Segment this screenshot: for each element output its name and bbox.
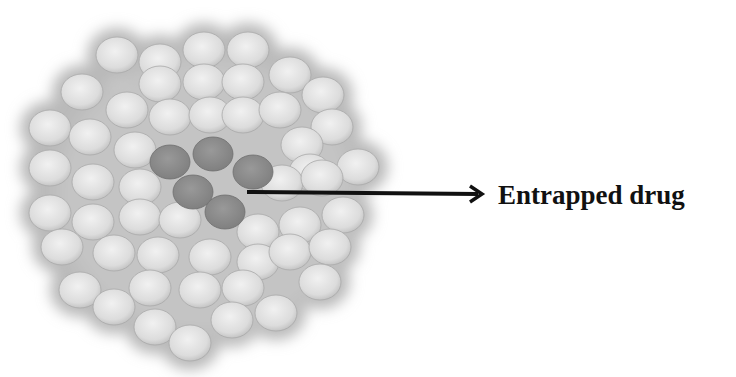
carrier-particle: [222, 97, 264, 133]
carrier-particle: [72, 164, 114, 200]
carrier-particle: [29, 195, 71, 231]
carrier-particle: [106, 92, 148, 128]
carrier-particle: [309, 229, 351, 265]
carrier-particle: [169, 325, 211, 361]
carrier-particle: [69, 119, 111, 155]
carrier-particle: [259, 92, 301, 128]
carrier-particle: [189, 239, 231, 275]
drug-particle: [233, 155, 273, 189]
carrier-particle: [183, 64, 225, 100]
carrier-particle: [302, 77, 344, 113]
carrier-particle: [149, 99, 191, 135]
carrier-particle: [93, 235, 135, 271]
carrier-particle: [255, 295, 297, 331]
drug-particle: [193, 137, 233, 171]
carrier-particle: [211, 302, 253, 338]
carrier-particle: [41, 229, 83, 265]
carrier-particle: [137, 237, 179, 273]
carrier-particle: [119, 199, 161, 235]
carrier-particle: [322, 197, 364, 233]
carrier-particle: [183, 32, 225, 68]
carrier-particle: [93, 289, 135, 325]
carrier-particle: [29, 110, 71, 146]
carrier-particle: [72, 204, 114, 240]
carrier-particle: [139, 66, 181, 102]
carrier-particle: [269, 234, 311, 270]
carrier-particle: [299, 264, 341, 300]
carrier-particle: [179, 272, 221, 308]
carrier-particle: [29, 150, 71, 186]
drug-particle: [150, 145, 190, 179]
carrier-particle: [61, 74, 103, 110]
carrier-particle: [96, 37, 138, 73]
carrier-particle: [227, 32, 269, 68]
entrapped-drug-label: Entrapped drug: [498, 180, 685, 211]
carrier-particle: [222, 270, 264, 306]
carrier-particle: [222, 64, 264, 100]
carrier-particle: [129, 270, 171, 306]
drug-particle: [205, 195, 245, 229]
